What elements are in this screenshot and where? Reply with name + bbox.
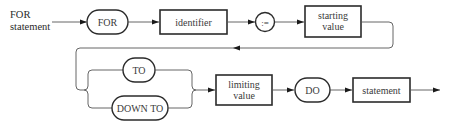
node-to-keyword: TO xyxy=(123,58,155,82)
assign-label: := xyxy=(261,18,269,28)
edge-merge-downto xyxy=(168,90,196,108)
node-downto-keyword: DOWN TO xyxy=(112,96,168,120)
node-statement: statement xyxy=(353,78,410,102)
edge-merge-to xyxy=(155,70,196,90)
starting-value-label-line-1: starting xyxy=(318,10,348,21)
arrow-do-statement xyxy=(345,88,352,93)
arrow-assign-starting xyxy=(297,20,304,25)
node-starting-value: starting value xyxy=(305,6,361,37)
diagram-title-line-1: FOR xyxy=(10,9,30,20)
limiting-value-label-line-2: value xyxy=(233,90,255,101)
node-assign: := xyxy=(256,13,275,32)
arrow-limiting-do xyxy=(287,88,294,93)
arrow-exit xyxy=(433,88,440,93)
node-identifier: identifier xyxy=(160,10,227,34)
identifier-label: identifier xyxy=(175,17,212,28)
arrow-identifier-assign xyxy=(248,20,255,25)
downto-keyword-label: DOWN TO xyxy=(117,103,164,114)
for-keyword-label: FOR xyxy=(98,17,118,28)
limiting-value-label-line-1: limiting xyxy=(228,79,260,90)
arrow-for-identifier xyxy=(152,20,159,25)
for-statement-syntax-diagram: FOR statement FOR identifier := starting… xyxy=(0,0,452,128)
edge-branch-downto xyxy=(84,90,112,108)
node-do-keyword: DO xyxy=(295,78,330,102)
arrow-merge-limiting xyxy=(208,88,215,93)
diagram-title-line-2: statement xyxy=(10,21,50,32)
node-for-keyword: FOR xyxy=(87,10,128,34)
starting-value-label-line-2: value xyxy=(322,21,344,32)
edge-branch-to xyxy=(84,70,123,90)
node-limiting-value: limiting value xyxy=(216,75,272,105)
statement-label: statement xyxy=(362,85,401,96)
arrow-loop-back xyxy=(233,46,240,51)
do-keyword-label: DO xyxy=(305,85,319,96)
to-keyword-label: TO xyxy=(132,65,145,76)
arrow-entry-for xyxy=(80,20,87,25)
